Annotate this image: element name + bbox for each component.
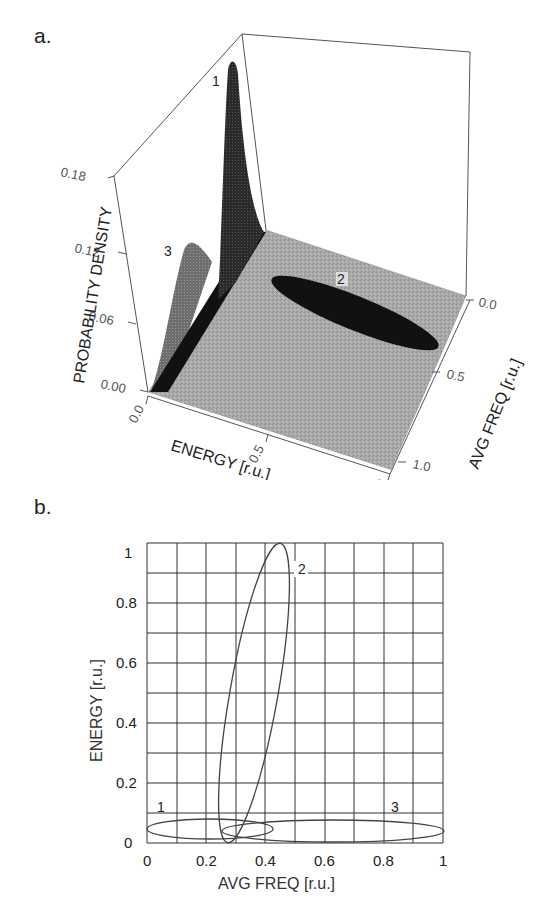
y-tick-0.4: 0.4 bbox=[116, 714, 137, 731]
x-tick-0.6: 0.6 bbox=[314, 852, 335, 869]
y-tick-1: 1 bbox=[124, 544, 132, 561]
contour-label-1: 1 bbox=[157, 799, 165, 815]
contour-label-2: 2 bbox=[298, 561, 306, 577]
x-tick-0: 0 bbox=[143, 852, 151, 869]
y-tick-0.8: 0.8 bbox=[116, 594, 137, 611]
y-tick-0.2: 0.2 bbox=[116, 774, 137, 791]
x-tick-0.2: 0.2 bbox=[196, 852, 217, 869]
contour-plot-2d: 2 1 3 1 0.8 0.6 0.4 0.2 0 0 0.2 0.4 0.6 … bbox=[0, 0, 534, 908]
contour-label-3: 3 bbox=[391, 799, 399, 815]
x-axis-label: AVG FREQ [r.u.] bbox=[218, 875, 335, 892]
y-axis-label: ENERGY [r.u.] bbox=[88, 659, 105, 762]
contour-ellipse-1[interactable] bbox=[147, 819, 273, 839]
grid bbox=[147, 543, 443, 843]
x-tick-0.4: 0.4 bbox=[255, 852, 276, 869]
x-tick-1: 1 bbox=[439, 852, 447, 869]
contour-ellipse-3[interactable] bbox=[222, 820, 444, 842]
x-tick-0.8: 0.8 bbox=[373, 852, 394, 869]
y-tick-0: 0 bbox=[124, 834, 132, 851]
y-tick-0.6: 0.6 bbox=[116, 654, 137, 671]
